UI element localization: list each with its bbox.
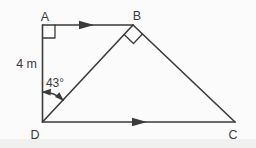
diagram-background [0, 0, 256, 148]
vertex-label-b: B [133, 9, 141, 23]
geometry-diagram: A B C D 4 m 43° [0, 0, 256, 148]
vertex-label-a: A [41, 10, 50, 24]
angle-adb-label: 43° [46, 76, 64, 90]
vertex-label-c: C [228, 128, 237, 142]
vertex-label-d: D [30, 128, 39, 142]
side-ad-length-label: 4 m [16, 57, 37, 71]
geometry-figure-canvas: A B C D 4 m 43° [0, 0, 256, 148]
